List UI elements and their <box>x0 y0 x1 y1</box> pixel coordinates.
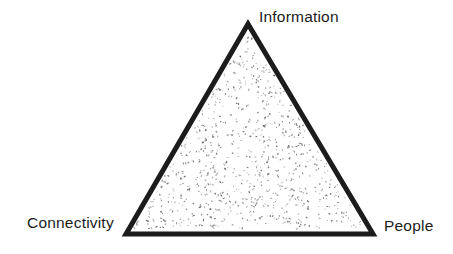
vertex-label-information: Information <box>259 8 339 26</box>
triangle-shape <box>126 24 373 234</box>
vertex-label-connectivity: Connectivity <box>27 214 114 232</box>
triangle-diagram: Information Connectivity People <box>0 0 453 254</box>
vertex-label-people: People <box>384 217 433 235</box>
